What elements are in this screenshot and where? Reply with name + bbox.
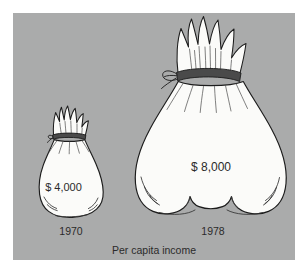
chart-panel: $ 4,000 xyxy=(13,13,295,260)
bag-1978-bow xyxy=(162,71,178,89)
bag-1970-bow xyxy=(48,135,54,142)
year-label-1970: 1970 xyxy=(59,225,83,237)
bag-1970-value-label: $ 4,000 xyxy=(45,181,82,193)
pictorial-chart: $ 4,000 xyxy=(13,13,295,260)
bag-1978-body xyxy=(135,82,286,214)
money-bag-1970: $ 4,000 xyxy=(39,106,103,217)
bag-1970-tie xyxy=(53,133,86,139)
bag-1978-value-label: $ 8,000 xyxy=(191,160,231,174)
year-label-1978: 1978 xyxy=(201,225,225,237)
figure-root: $ 4,000 xyxy=(0,0,307,272)
bag-1978-neck xyxy=(177,17,246,76)
money-bag-1978: $ 8,000 xyxy=(135,17,286,215)
figure-caption: Per capita income xyxy=(112,244,196,256)
bag-1978-tie xyxy=(177,68,242,81)
